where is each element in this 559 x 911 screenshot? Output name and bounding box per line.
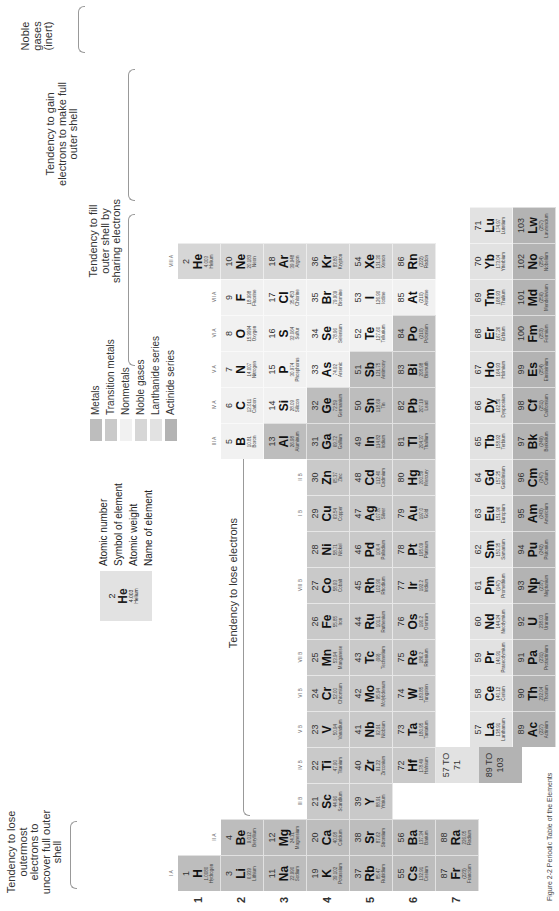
element-cell-lanthanum: 57La138.91Lanthanum — [470, 711, 513, 747]
atomic-number: 70 — [474, 244, 483, 279]
atomic-number: 88 — [440, 820, 449, 855]
element-symbol: Ar — [278, 244, 290, 279]
atomic-number: 29 — [311, 496, 320, 531]
element-cell-plutonium: 94Pu(242)Plutonium — [513, 531, 556, 567]
element-name: Antimony — [382, 352, 387, 387]
element-symbol: Cm — [527, 460, 539, 495]
element-cell-hafnium: 72Hf178.49Hafnium — [393, 747, 436, 783]
element-symbol: Eu — [484, 496, 496, 531]
element-name: Lithium — [253, 856, 258, 891]
element-cell-hydrogen: 1H1.0080Hydrogen — [178, 855, 221, 891]
element-name: Fluorine — [253, 280, 258, 315]
element-cell-lithium: 3Li6.939Lithium — [221, 855, 264, 891]
element-symbol: O — [235, 316, 247, 351]
atomic-number: 78 — [397, 532, 406, 567]
element-symbol: Tm — [484, 280, 496, 315]
atomic-number: 75 — [397, 640, 406, 675]
element-cell-rubidium: 37Rb85.47Rubidium — [350, 855, 393, 891]
atomic-number: 45 — [354, 568, 363, 603]
element-cell-silicon: 14Si28.09Silicon — [264, 387, 307, 423]
element-symbol: Ru — [364, 604, 376, 639]
atomic-number: 91 — [517, 640, 526, 675]
atomic-number: 35 — [311, 280, 320, 315]
element-cell-zinc: 30Zn65.37Zinc — [307, 459, 350, 495]
group-label-ia: I A — [168, 855, 174, 891]
atomic-number: 12 — [268, 820, 277, 855]
element-cell-gold: 79Au197.0Gold — [393, 495, 436, 531]
element-name: Niobium — [382, 712, 387, 747]
atomic-number: 5 — [225, 424, 234, 459]
element-symbol: Au — [407, 496, 419, 531]
element-name: Nobelium — [545, 244, 550, 279]
group-label-iiia: III A — [211, 423, 217, 459]
element-symbol: Md — [527, 280, 539, 315]
element-cell-calcium: 20Ca40.08Calcium — [307, 819, 350, 855]
element-cell-yttrium: 39Y88.91Yttrium — [350, 783, 393, 819]
atomic-number: 60 — [474, 604, 483, 639]
atomic-number: 100 — [517, 316, 526, 351]
element-name: Astatine — [425, 280, 430, 315]
element-cell-praseodymium: 59Pr140.91Praseodymium — [470, 639, 513, 675]
legend-swatch — [105, 419, 117, 441]
element-symbol: Ti — [321, 748, 333, 783]
element-name: Iridium — [425, 568, 430, 603]
element-cell-rhenium: 75Re186.2Rhenium — [393, 639, 436, 675]
element-symbol: Re — [407, 640, 419, 675]
element-symbol: V — [321, 712, 333, 747]
element-name: Indium — [382, 424, 387, 459]
element-symbol: Ge — [321, 388, 333, 423]
atomic-number: 89 — [517, 712, 526, 747]
element-cell-samarium: 62Sm150.35Samarium — [470, 531, 513, 567]
atomic-number: 62 — [474, 532, 483, 567]
element-cell-berkelium: 97Bk(249)Berkelium — [513, 423, 556, 459]
legend-item: Lanthanide series — [148, 336, 163, 441]
element-name: Iron — [339, 604, 344, 639]
atomic-number: 93 — [517, 568, 526, 603]
atomic-number: 23 — [311, 712, 320, 747]
element-name: Aluminum — [296, 424, 301, 459]
element-cell-phosphorus: 15P30.974Phosphorus — [264, 351, 307, 387]
element-cell-dysprosium: 66Dy162.50Dysprosium — [470, 387, 513, 423]
key-label-weight: Atomic weight — [128, 504, 139, 566]
element-symbol: Sc — [321, 784, 333, 819]
element-name: Lead — [425, 388, 430, 423]
element-name: Cerium — [502, 676, 507, 711]
element-symbol: Lu — [484, 208, 496, 243]
element-symbol: Pm — [484, 568, 496, 603]
atomic-number: 58 — [474, 676, 483, 711]
legend-item: Noble gases — [133, 359, 148, 441]
key-example-cell: 2 He 4.003 Helium — [100, 571, 152, 621]
element-cell-holmium: 67Ho164.93Holmium — [470, 351, 513, 387]
element-name: Tellurium — [382, 316, 387, 351]
element-name: Silver — [382, 496, 387, 531]
atomic-number: 74 — [397, 676, 406, 711]
element-cell-helium: 2He4.003Helium — [178, 243, 221, 279]
atomic-number: 64 — [474, 460, 483, 495]
element-cell-argon: 18Ar39.948Argon — [264, 243, 307, 279]
element-symbol: Ra — [450, 820, 462, 855]
element-cell-tungsten: 74W183.85Tungsten — [393, 675, 436, 711]
element-symbol: At — [407, 280, 419, 315]
element-cell-ytterbium: 70Yb173.04Ytterbium — [470, 243, 513, 279]
element-cell-iodine: 53I126.90Iodine — [350, 279, 393, 315]
group-label-iva: IV A — [211, 387, 217, 423]
element-name: Silicon — [296, 388, 301, 423]
element-name: Rhenium — [425, 640, 430, 675]
element-symbol: Hg — [407, 460, 419, 495]
atomic-number: 95 — [517, 496, 526, 531]
element-symbol: P — [278, 352, 290, 387]
atomic-number: 17 — [268, 280, 277, 315]
atomic-number: 44 — [354, 604, 363, 639]
atomic-number: 36 — [311, 244, 320, 279]
element-symbol: Ac — [527, 712, 539, 747]
element-symbol: Es — [527, 352, 539, 387]
key-label-atomic-number: Atomic number — [98, 499, 109, 566]
group-label-viiia: VIII A — [168, 243, 174, 279]
element-cell-copper: 29Cu63.54Copper — [307, 495, 350, 531]
element-cell-silver: 47Ag107.87Silver — [350, 495, 393, 531]
element-name: Nickel — [339, 532, 344, 567]
element-symbol: Ta — [407, 712, 419, 747]
atomic-number: 39 — [354, 784, 363, 819]
element-cell-cadmium: 48Cd112.40Cadmium — [350, 459, 393, 495]
element-name: Cesium — [425, 856, 430, 891]
